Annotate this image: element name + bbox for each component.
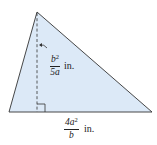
- height-label-fraction: b2 5a: [50, 54, 60, 77]
- base-unit: in.: [84, 123, 94, 134]
- height-unit: in.: [64, 60, 74, 71]
- base-numerator: 4a2: [64, 117, 79, 130]
- base-denominator: b: [64, 130, 79, 141]
- triangle: [9, 12, 152, 112]
- height-numerator: b2: [50, 54, 60, 67]
- height-denominator: 5a: [50, 67, 60, 78]
- base-label-fraction: 4a2 b: [64, 117, 79, 140]
